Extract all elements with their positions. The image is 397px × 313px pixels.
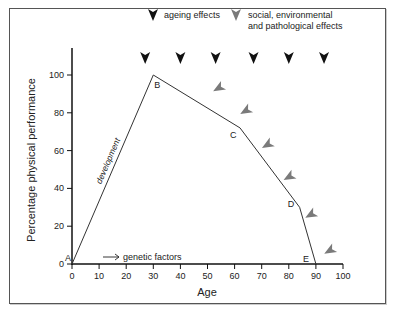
point-label-e: E [303, 254, 309, 264]
development-annotation: development [94, 136, 123, 185]
y-tick-label: 60 [54, 146, 64, 156]
legend-label-ageing: ageing effects [164, 10, 220, 20]
x-tick-label: 0 [69, 271, 74, 281]
point-label-b: B [154, 80, 160, 90]
legend-label-social-line1: social, environmental [248, 10, 333, 20]
ageing-arrow-icon [140, 52, 150, 64]
axes: 0102030405060708090100020406080100 [49, 48, 351, 281]
x-tick-label: 40 [175, 271, 185, 281]
y-tick-label: 80 [54, 108, 64, 118]
social-effect-arrow-icon [281, 170, 296, 185]
ageing-arrow-icon [249, 52, 259, 64]
social-effect-arrow-icon [322, 243, 337, 258]
x-tick-label: 10 [94, 271, 104, 281]
legend: ageing effects social, environmental and… [148, 9, 343, 31]
x-tick-label: 60 [230, 271, 240, 281]
y-tick-label: 40 [54, 183, 64, 193]
ageing-arrow-icon [175, 52, 185, 64]
ageing-arrow-icon [211, 52, 221, 64]
x-axis-label: Age [197, 286, 217, 298]
legend-social-arrow-icon [231, 9, 241, 21]
x-tick-label: 20 [121, 271, 131, 281]
y-tick-label: 100 [49, 70, 64, 80]
x-tick-label: 50 [202, 271, 212, 281]
social-effect-arrow-icon [238, 104, 253, 119]
point-label-a: A [65, 253, 71, 263]
point-label-d: D [288, 199, 295, 209]
x-tick-label: 80 [284, 271, 294, 281]
ageing-arrow-icon [319, 52, 329, 64]
y-axis-label: Percentage physical performance [25, 78, 37, 242]
legend-label-social-line2: and pathological effects [248, 21, 343, 31]
legend-ageing-arrow-icon [148, 9, 158, 21]
social-effect-arrow-icon [259, 138, 274, 153]
genetic-factors-annotation: genetic factors [123, 252, 182, 262]
chart: 0102030405060708090100020406080100 ABCDE… [0, 0, 397, 313]
x-tick-label: 90 [311, 271, 321, 281]
x-tick-label: 70 [257, 271, 267, 281]
point-label-c: C [230, 130, 237, 140]
y-tick-label: 20 [54, 221, 64, 231]
y-tick-label: 0 [59, 259, 64, 269]
social-effect-arrow-icon [303, 208, 318, 223]
x-tick-label: 100 [335, 271, 350, 281]
x-tick-label: 30 [148, 271, 158, 281]
social-effect-arrow-icon [211, 81, 226, 96]
ageing-arrow-icon [284, 52, 294, 64]
